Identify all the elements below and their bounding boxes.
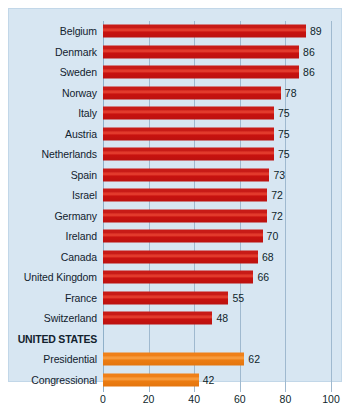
- bar: [103, 168, 269, 181]
- bar: [103, 86, 281, 99]
- bar-value-label: 78: [285, 87, 297, 98]
- bar-value-label: 75: [278, 128, 290, 139]
- bar: [103, 45, 299, 58]
- bar-row: Netherlands75: [9, 144, 341, 165]
- bar-row: Denmark86: [9, 42, 341, 63]
- bar-row: Italy75: [9, 103, 341, 124]
- bar: [103, 107, 274, 120]
- row-label: Germany: [9, 210, 97, 221]
- row-label: UNITED STATES: [9, 333, 97, 344]
- bar-row: Ireland70: [9, 226, 341, 247]
- bar-row: Austria75: [9, 124, 341, 145]
- bar-value-label: 86: [303, 46, 315, 57]
- bar-value-label: 68: [262, 251, 274, 262]
- x-tick-label: 20: [134, 393, 164, 405]
- bar-row: Belgium89: [9, 21, 341, 42]
- bar-row: Norway78: [9, 83, 341, 104]
- bar-row: Sweden86: [9, 62, 341, 83]
- bar-value-label: 62: [248, 354, 260, 365]
- row-label: Sweden: [9, 67, 97, 78]
- bar: [103, 189, 267, 202]
- row-label: Ireland: [9, 231, 97, 242]
- row-label: United Kingdom: [9, 272, 97, 283]
- bar: [103, 25, 306, 38]
- bar-row: Congressional42: [9, 370, 341, 391]
- row-label: France: [9, 292, 97, 303]
- bar: [103, 291, 228, 304]
- row-label: Congressional: [9, 374, 97, 385]
- row-label: Switzerland: [9, 313, 97, 324]
- row-label: Israel: [9, 190, 97, 201]
- x-tick-label: 40: [179, 393, 209, 405]
- bar-value-label: 55: [232, 292, 244, 303]
- bar-value-label: 70: [267, 231, 279, 242]
- bar-value-label: 75: [278, 149, 290, 160]
- bar-row: Canada68: [9, 247, 341, 268]
- row-label: Austria: [9, 128, 97, 139]
- x-tick-label: 0: [88, 393, 118, 405]
- bar: [103, 148, 274, 161]
- bar-row: Spain73: [9, 165, 341, 186]
- bar-value-label: 66: [257, 272, 269, 283]
- row-label: Canada: [9, 251, 97, 262]
- chart-panel: Belgium89Denmark86Sweden86Norway78Italy7…: [8, 8, 342, 382]
- bar-row: France55: [9, 288, 341, 309]
- bar-value-label: 72: [271, 190, 283, 201]
- row-label: Norway: [9, 87, 97, 98]
- bar: [103, 353, 244, 366]
- row-label: Belgium: [9, 26, 97, 37]
- bar-value-label: 48: [216, 313, 228, 324]
- row-label: Denmark: [9, 46, 97, 57]
- bar-value-label: 72: [271, 210, 283, 221]
- x-tick-label: 100: [316, 393, 346, 405]
- x-tick-label: 60: [225, 393, 255, 405]
- bar: [103, 312, 212, 325]
- x-tick-label: 80: [270, 393, 300, 405]
- bar-value-label: 42: [203, 374, 215, 385]
- bar: [103, 127, 274, 140]
- plot-area: Belgium89Denmark86Sweden86Norway78Italy7…: [9, 9, 341, 381]
- x-axis: 020406080100: [9, 393, 341, 407]
- bar: [103, 209, 267, 222]
- bar-value-label: 89: [310, 26, 322, 37]
- bar: [103, 373, 199, 386]
- bar-value-label: 75: [278, 108, 290, 119]
- row-label: Presidential: [9, 354, 97, 365]
- row-label: Spain: [9, 169, 97, 180]
- bar: [103, 66, 299, 79]
- bar-row: Germany72: [9, 206, 341, 227]
- bar-row: Presidential62: [9, 349, 341, 370]
- bar-value-label: 86: [303, 67, 315, 78]
- bar: [103, 250, 258, 263]
- row-label: Netherlands: [9, 149, 97, 160]
- bar-value-label: 73: [273, 169, 285, 180]
- row-label: Italy: [9, 108, 97, 119]
- bar: [103, 230, 263, 243]
- bar-row: Switzerland48: [9, 308, 341, 329]
- bar-row: United Kingdom66: [9, 267, 341, 288]
- bar-row: Israel72: [9, 185, 341, 206]
- bar-row: UNITED STATES: [9, 329, 341, 350]
- bar: [103, 271, 253, 284]
